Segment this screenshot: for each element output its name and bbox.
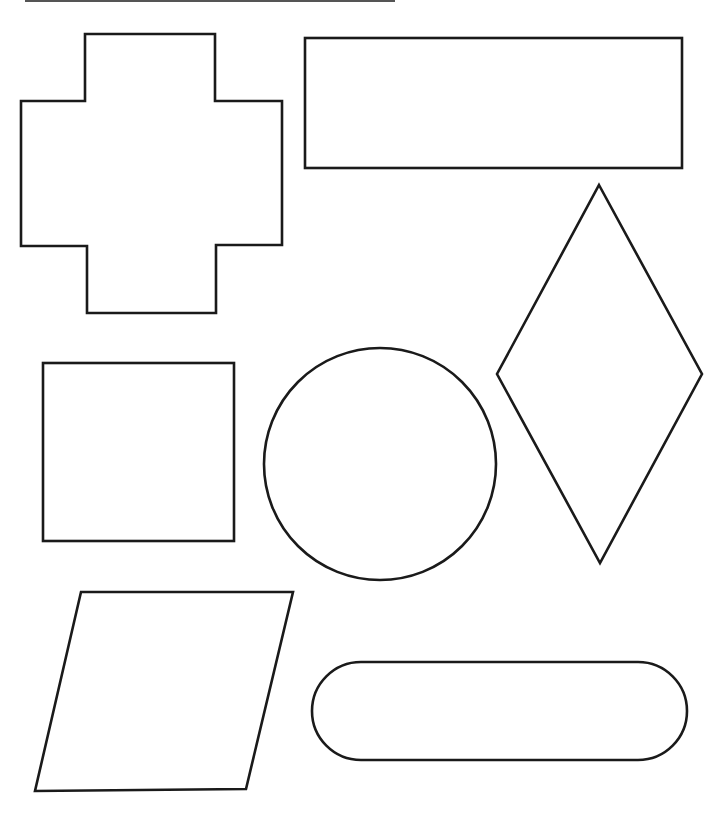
- rectangle-shape: [305, 38, 682, 168]
- diamond-shape: [497, 185, 702, 563]
- shapes-canvas: [0, 0, 727, 820]
- parallelogram-shape: [35, 592, 293, 791]
- plus-cross-shape: [21, 34, 282, 313]
- square-shape: [43, 363, 234, 541]
- stadium-oval-shape: [312, 662, 687, 760]
- circle-shape: [264, 348, 496, 580]
